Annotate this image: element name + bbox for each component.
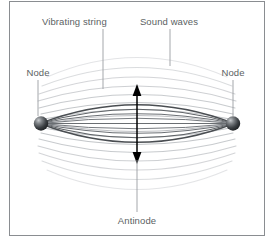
node-sphere-right — [226, 116, 240, 130]
node-sphere-left — [34, 116, 48, 130]
label-sound-waves: Sound waves — [140, 16, 198, 27]
label-antinode: Antinode — [118, 215, 156, 226]
label-vibrating-string: Vibrating string — [42, 16, 107, 27]
label-node-left: Node — [26, 67, 49, 78]
label-node-right: Node — [221, 67, 244, 78]
standing-wave-diagram: Vibrating string Sound waves Node Node A… — [0, 0, 275, 251]
figure-canvas: Vibrating string Sound waves Node Node A… — [0, 0, 275, 251]
